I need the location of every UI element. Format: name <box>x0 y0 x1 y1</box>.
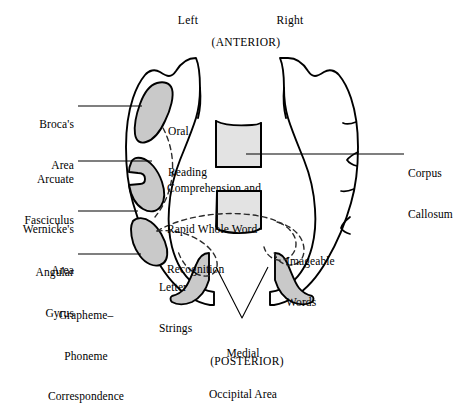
label-medial-occipital-line2: Occipital Area <box>185 388 301 402</box>
label-imageable-words-line2: Words <box>286 296 352 310</box>
anterior-label: (ANTERIOR) <box>196 36 296 50</box>
hemisphere-left-label: Left <box>148 14 228 28</box>
label-comprehension-line1: Comprehension and <box>167 182 287 196</box>
label-wernickes-area-line1: Wernicke's <box>0 223 74 237</box>
label-medial-occipital-area: Medial Occipital Area <box>185 320 301 407</box>
label-comprehension-line2: Rapid Whole Word <box>167 223 287 237</box>
label-letter-strings-line1: Letter <box>159 281 217 295</box>
label-imageable-words-line1: Imageable <box>286 255 352 269</box>
label-oral-reading-line1: Oral <box>168 125 238 139</box>
label-grapheme-phoneme-line2: Phoneme <box>18 350 154 364</box>
label-corpus-callosum: Corpus Callosum <box>408 140 473 248</box>
label-corpus-callosum-line2: Callosum <box>408 208 473 222</box>
label-angular-gyrus-line1: Angular <box>0 266 74 280</box>
label-brocas-area-line1: Broca's <box>0 118 74 132</box>
label-grapheme-phoneme-line1: Grapheme– <box>18 309 154 323</box>
label-corpus-callosum-line1: Corpus <box>408 167 473 181</box>
label-arcuate-fasciculus-line1: Arcuate <box>0 173 74 187</box>
label-grapheme-phoneme-correspondence: Grapheme– Phoneme Correspondence <box>18 282 154 407</box>
hemisphere-right-label: Right <box>250 14 330 28</box>
label-grapheme-phoneme-line3: Correspondence <box>18 390 154 404</box>
label-medial-occipital-line1: Medial <box>185 347 301 361</box>
